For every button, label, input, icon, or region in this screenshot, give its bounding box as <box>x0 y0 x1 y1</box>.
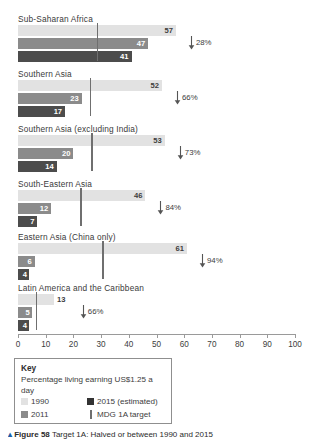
bar-2011 <box>18 256 35 267</box>
x-axis-tick-90 <box>267 334 268 338</box>
x-axis-tick-0 <box>18 334 19 338</box>
legend-entry-2015: 2015 (estimated) <box>87 397 158 406</box>
legend-label-2011: 2011 <box>31 410 48 419</box>
x-axis-tick-label-100: 100 <box>288 340 302 349</box>
bar-1990 <box>18 190 145 201</box>
x-axis-tick-100 <box>295 334 296 338</box>
group-label: Southern Asia (excluding India) <box>18 124 138 134</box>
reduction-annotation: 66% <box>80 305 104 317</box>
bar-row-2015: 17 <box>18 106 65 117</box>
reduction-percent-label: 94% <box>207 256 223 265</box>
bar-value-label-2011: 12 <box>40 203 48 214</box>
legend-entry-1990: 1990 <box>21 397 49 406</box>
bar-row-1990: 46 <box>18 190 145 201</box>
group-label: Sub-Saharan Africa <box>18 14 93 24</box>
bar-2011 <box>18 38 148 49</box>
x-axis-tick-60 <box>184 334 185 338</box>
x-axis-tick-label-20: 20 <box>69 340 78 349</box>
bar-value-label-2015: 4 <box>23 320 27 331</box>
bar-row-2015: 4 <box>18 269 29 280</box>
legend-label-1990: 1990 <box>31 397 49 406</box>
x-axis: 0102030405060708090100 <box>0 334 321 356</box>
x-axis-tick-40 <box>129 334 130 338</box>
figure-caption: ▴ Figure 58 Target 1A: Halved or between… <box>8 430 318 439</box>
bar-row-2011: 47 <box>18 38 148 49</box>
bar-value-label-2015: 4 <box>23 269 27 280</box>
legend-key-box: Key Percentage living earning US$1.25 a … <box>14 358 172 424</box>
reduction-percent-label: 84% <box>165 203 181 212</box>
reduction-annotation: 84% <box>157 201 181 213</box>
bar-value-label-2011: 5 <box>26 307 30 318</box>
x-axis-tick-label-80: 80 <box>235 340 244 349</box>
bar-value-label-2011: 20 <box>62 148 70 159</box>
down-arrow-icon <box>157 201 164 213</box>
down-arrow-icon <box>199 254 206 266</box>
down-arrow-icon <box>174 91 181 103</box>
bar-value-label-1990: 57 <box>164 25 172 36</box>
legend-label-2015: 2015 (estimated) <box>97 397 158 406</box>
reduction-annotation: 28% <box>188 36 212 48</box>
mdg-target-line <box>36 292 37 330</box>
bar-value-label-1990: 61 <box>176 243 184 254</box>
x-axis-tick-label-60: 60 <box>180 340 189 349</box>
x-axis-tick-label-10: 10 <box>41 340 50 349</box>
down-arrow-icon <box>80 305 87 317</box>
x-axis-tick-label-40: 40 <box>124 340 133 349</box>
bar-row-2011: 12 <box>18 203 51 214</box>
x-axis-tick-30 <box>101 334 102 338</box>
mdg-target-line <box>102 241 103 279</box>
chart-group: Latin America and the Caribbean1354 <box>0 283 321 335</box>
reduction-annotation: 94% <box>199 254 223 266</box>
reduction-percent-label: 28% <box>196 38 212 47</box>
bar-value-label-2015: 41 <box>120 51 128 62</box>
down-arrow-icon <box>177 146 184 158</box>
legend-entry-mdg-target: MDG 1A target <box>87 410 151 419</box>
bar-row-2011: 23 <box>18 93 82 104</box>
mdg-target-line <box>97 23 98 61</box>
mdg-target-line <box>91 133 92 171</box>
bar-value-label-1990: 13 <box>57 294 65 305</box>
bar-value-label-2011: 6 <box>27 256 31 267</box>
bar-value-label-2011: 47 <box>137 38 145 49</box>
chart-group: Sub-Saharan Africa574741 <box>0 14 321 66</box>
legend-swatch-2011-icon <box>21 411 28 418</box>
poverty-reduction-bar-chart: Sub-Saharan Africa57474128%Southern Asia… <box>0 0 321 439</box>
bar-value-label-1990: 46 <box>134 190 142 201</box>
legend-swatch-mdg-line-icon <box>90 410 92 419</box>
x-axis-tick-label-90: 90 <box>263 340 272 349</box>
x-axis-tick-70 <box>212 334 213 338</box>
group-label: Eastern Asia (China only) <box>18 232 116 242</box>
bar-row-2011: 20 <box>18 148 73 159</box>
legend-swatch-2015-icon <box>87 398 94 405</box>
bar-row-2015: 14 <box>18 161 57 172</box>
legend-entry-2011: 2011 <box>21 410 48 419</box>
x-axis-tick-10 <box>46 334 47 338</box>
bar-row-2015: 4 <box>18 320 29 331</box>
mdg-target-line <box>80 188 81 226</box>
reduction-annotation: 66% <box>174 91 198 103</box>
legend-subtitle: Percentage living earning US$1.25 a day <box>21 375 167 396</box>
bar-row-2011: 6 <box>18 256 35 267</box>
down-arrow-icon <box>188 36 195 48</box>
bar-value-label-2011: 23 <box>70 93 78 104</box>
legend-label-mdg-target: MDG 1A target <box>97 410 151 419</box>
bar-value-label-1990: 53 <box>153 135 161 146</box>
x-axis-tick-label-70: 70 <box>207 340 216 349</box>
x-axis-tick-80 <box>240 334 241 338</box>
legend-swatch-1990-icon <box>21 398 28 405</box>
x-axis-tick-label-0: 0 <box>16 340 21 349</box>
bar-row-2015: 7 <box>18 216 37 227</box>
bar-row-2015: 41 <box>18 51 132 62</box>
mdg-target-line <box>90 78 91 116</box>
caption-marker-icon: ▴ <box>8 430 12 439</box>
bar-2015 <box>18 216 37 227</box>
chart-group: Southern Asia (excluding India)532014 <box>0 124 321 176</box>
x-axis-tick-20 <box>73 334 74 338</box>
x-axis-tick-50 <box>157 334 158 338</box>
reduction-percent-label: 73% <box>185 148 201 157</box>
group-label: Southern Asia <box>18 69 72 79</box>
caption-figure-number: Figure 58 <box>14 430 50 439</box>
bar-value-label-1990: 52 <box>151 80 159 91</box>
bar-row-2011: 5 <box>18 307 32 318</box>
chart-group: Southern Asia522317 <box>0 69 321 121</box>
